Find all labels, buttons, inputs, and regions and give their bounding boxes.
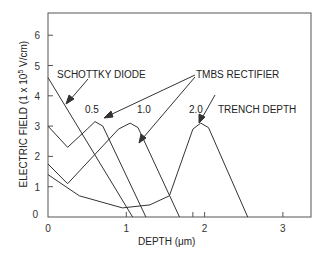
svg-text:4: 4 (34, 91, 40, 102)
svg-text:1: 1 (124, 223, 130, 234)
y-axis-label: ELECTRIC FIELD (1 x 105 V/cm) (17, 39, 29, 189)
svg-text:6: 6 (34, 30, 40, 41)
svg-text:0: 0 (45, 223, 51, 234)
svg-text:2: 2 (34, 151, 40, 162)
annotation-tmbs: TMBS RECTIFIER (196, 69, 279, 80)
annotation-depth-0-5: 0.5 (85, 104, 99, 115)
axis-ticks: 01230123456 (32, 30, 286, 234)
electric-field-chart: 01230123456 (0, 0, 323, 259)
series-curves (48, 78, 248, 217)
annotation-depth-2-0: 2.0 (189, 104, 203, 115)
svg-text:3: 3 (34, 121, 40, 132)
svg-text:0: 0 (32, 209, 38, 220)
svg-text:3: 3 (280, 223, 286, 234)
svg-text:5: 5 (34, 61, 40, 72)
svg-text:1: 1 (34, 182, 40, 193)
svg-text:2: 2 (202, 223, 208, 234)
annotation-trench-depth: TRENCH DEPTH (218, 104, 296, 115)
annotation-depth-1-0: 1.0 (137, 104, 151, 115)
plot-frame (48, 13, 311, 217)
annotation-schottky: SCHOTTKY DIODE (57, 69, 146, 80)
x-axis-label: DEPTH (μm) (138, 236, 195, 247)
